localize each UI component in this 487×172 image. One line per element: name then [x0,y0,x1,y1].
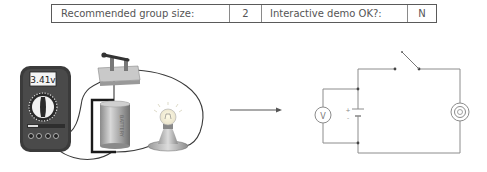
battery-label: BATTERY [119,115,125,138]
battery-symbol: + - [345,106,364,121]
circuit-schematic [323,69,460,153]
open-switch-symbol [394,51,421,70]
light-bulb-icon [148,102,188,151]
lamp-symbol [451,103,469,121]
knife-switch-icon [98,52,140,86]
voltmeter-symbol: V [315,107,331,123]
arrow-right-icon [230,108,282,113]
multimeter-reading: 3.41v [30,75,56,85]
svg-text:+: + [345,106,350,113]
multimeter-icon: 3.41v [20,66,71,152]
battery-icon: BATTERY [92,100,130,152]
svg-text:V: V [320,112,326,121]
circuit-illustration: 3.41v BATTERY [0,0,487,172]
svg-text:-: - [347,114,349,121]
